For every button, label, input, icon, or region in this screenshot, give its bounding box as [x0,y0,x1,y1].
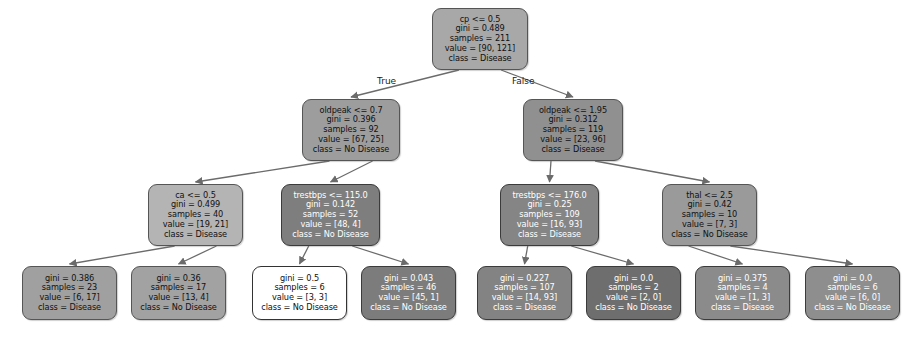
node-text-line: class = No Disease [140,303,217,313]
tree-edge-true [689,246,743,264]
tree-edge-true [70,246,175,264]
node-text-line: class = Disease [711,303,774,313]
tree-edge-false [179,246,217,264]
node-text-line: class = Disease [38,303,101,313]
node-text-line: class = No Disease [814,303,891,313]
tree-decision-node: thal <= 2.5gini = 0.42samples = 10value … [662,184,757,246]
node-text-line: class = No Disease [671,230,748,240]
node-text-line: class = Disease [493,303,556,313]
tree-leaf-node: gini = 0.227samples = 107value = [14, 93… [477,266,572,320]
tree-decision-node: trestbps <= 176.0gini = 0.25samples = 10… [500,184,599,246]
tree-leaf-node: gini = 0.0samples = 2value = [2, 0]class… [586,266,681,320]
tree-leaf-node: gini = 0.36samples = 17value = [13, 4]cl… [131,266,226,320]
tree-decision-node: oldpeak <= 1.95gini = 0.312samples = 119… [523,99,623,161]
tree-decision-node: ca <= 0.5gini = 0.499samples = 40value =… [148,184,243,246]
node-text-line: class = Disease [541,145,604,155]
edge-label-false: False [512,76,535,86]
tree-edge-false [595,161,710,182]
node-text-line: class = Disease [448,54,511,64]
node-text-line: class = No Disease [370,303,447,313]
tree-edge-true [196,161,330,182]
decision-tree-diagram: cp <= 0.5gini = 0.489samples = 211value … [0,0,917,340]
tree-edge-true [351,70,459,97]
node-text-line: class = No Disease [313,145,390,155]
tree-decision-node: trestbps <= 115.0gini = 0.142samples = 5… [281,184,380,246]
tree-leaf-node: gini = 0.0samples = 6value = [6, 0]class… [805,266,900,320]
tree-edge-false [730,246,852,264]
tree-leaf-node: gini = 0.375samples = 4value = [1, 3]cla… [695,266,790,320]
node-text-line: class = Disease [518,230,581,240]
tree-edge-false [571,246,633,264]
tree-edge-true [550,161,552,182]
tree-decision-node: cp <= 0.5gini = 0.489samples = 211value … [432,8,528,70]
tree-leaf-node: gini = 0.386samples = 23value = [6, 17]c… [22,266,117,320]
node-text-line: class = No Disease [595,303,672,313]
tree-leaf-node: gini = 0.043samples = 46value = [45, 1]c… [361,266,456,320]
tree-edge-false [331,161,373,182]
node-text-line: class = No Disease [292,230,369,240]
node-text-line: class = Disease [164,230,227,240]
tree-edge-true [300,246,309,264]
tree-edge-true [525,246,528,264]
node-text-line: class = No Disease [261,303,338,313]
tree-leaf-node: gini = 0.5samples = 6value = [3, 3]class… [252,266,347,320]
tree-edge-false [352,246,408,264]
edge-label-true: True [377,76,396,86]
tree-decision-node: oldpeak <= 0.7gini = 0.396samples = 92va… [302,99,400,161]
